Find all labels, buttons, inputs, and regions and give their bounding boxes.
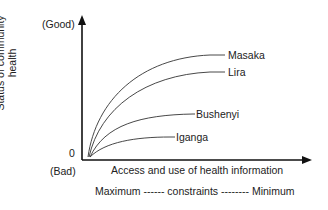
x-axis-label: Access and use of health information xyxy=(111,165,283,176)
x-axis-arrow-icon xyxy=(302,156,312,164)
constraints-caption: Maximum ------ constraints -------- Mini… xyxy=(95,186,294,197)
y-axis-label-line2: health xyxy=(6,8,18,118)
y-axis-arrow-icon xyxy=(78,15,86,25)
series-label-iganga: Iganga xyxy=(176,132,208,143)
y-axis-label: Status of community health xyxy=(0,8,18,118)
curve-iganga xyxy=(90,137,175,157)
bad-label: (Bad) xyxy=(50,166,76,177)
series-label-lira: Lira xyxy=(228,67,246,78)
series-label-bushenyi: Bushenyi xyxy=(196,109,239,120)
chart-canvas xyxy=(0,0,328,210)
series-label-masaka: Masaka xyxy=(228,50,265,61)
origin-label: 0 xyxy=(69,148,75,159)
good-label: (Good) xyxy=(42,19,75,30)
